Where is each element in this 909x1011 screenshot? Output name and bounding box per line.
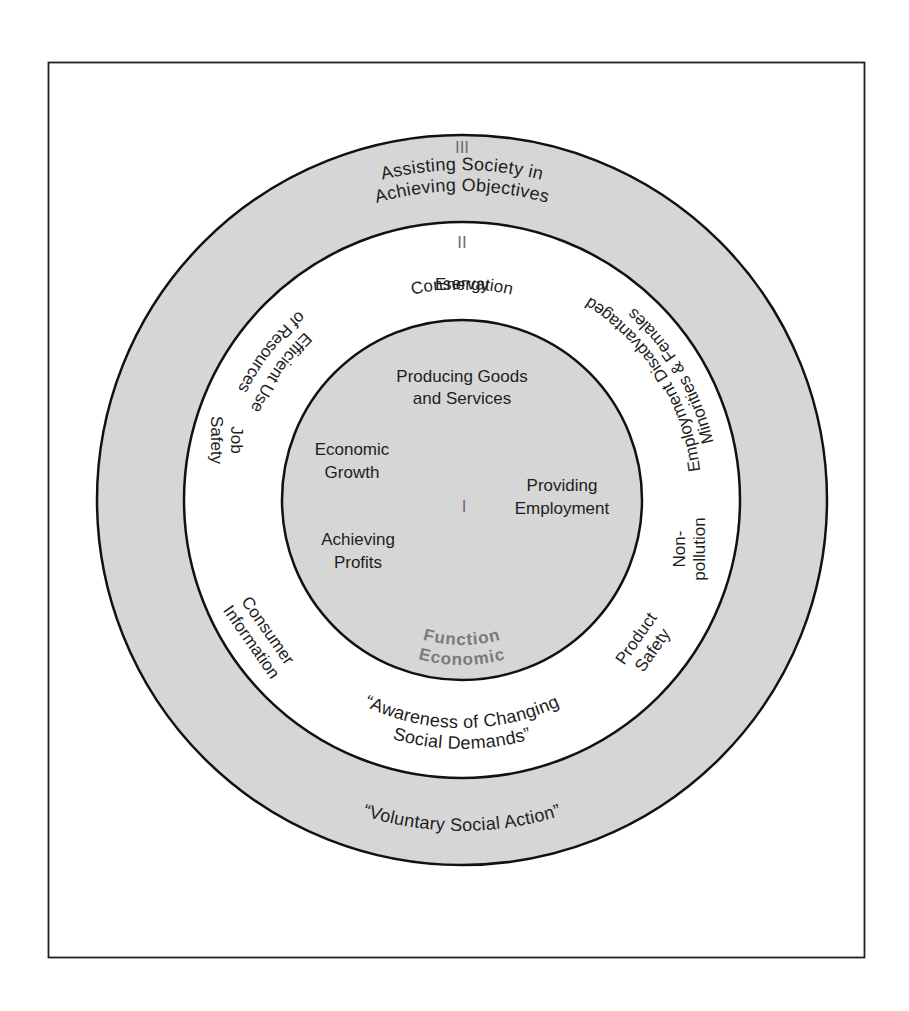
providing-employment-line2: Employment <box>515 499 610 518</box>
nonpollution-line1: Non- <box>670 531 689 568</box>
ring-numeral-II: II <box>457 233 466 252</box>
producing-goods-line2: and Services <box>413 389 511 408</box>
job-safety-line2: Safety <box>207 416 226 465</box>
producing-goods-line1: Producing Goods <box>396 367 527 386</box>
job-safety-line1: Job <box>227 426 246 453</box>
providing-employment-line1: Providing <box>527 476 598 495</box>
social-responsibility-diagram: III Assisting Society in Achieving Objec… <box>0 0 909 1011</box>
economic-growth-line1: Economic <box>315 440 390 459</box>
achieving-profits-line2: Profits <box>334 553 382 572</box>
achieving-profits-line1: Achieving <box>321 530 395 549</box>
ring-numeral-I: I <box>462 497 467 516</box>
nonpollution-line2: pollution <box>690 517 709 580</box>
economic-growth-line2: Growth <box>325 463 380 482</box>
